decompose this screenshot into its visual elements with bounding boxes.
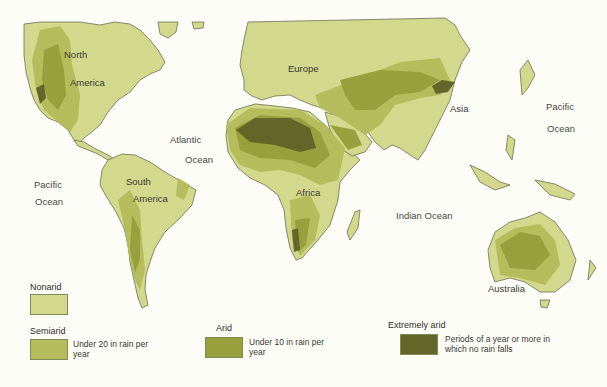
legend-arid-swatch	[205, 337, 243, 358]
label-asia: Asia	[450, 104, 468, 115]
label-europe: Europe	[288, 64, 319, 75]
label-north-america-1: North	[64, 50, 87, 61]
label-atlantic-ocean-1: Atlantic	[170, 135, 201, 146]
label-pacific-ocean-west-1: Pacific	[34, 180, 62, 191]
label-africa: Africa	[296, 188, 320, 199]
new-zealand-landmass	[588, 260, 596, 280]
legend-nonarid-title: Nonarid	[30, 282, 62, 292]
legend-extremely-arid-description: Periods of a year or more in which no ra…	[445, 334, 560, 354]
label-pacific-ocean-west-2: Ocean	[35, 197, 63, 208]
label-south-america-1: South	[126, 177, 151, 188]
tasmania-landmass	[540, 300, 550, 308]
new-guinea-landmass	[535, 180, 575, 200]
legend-semiarid-swatch	[30, 339, 68, 360]
label-pacific-ocean-east-1: Pacific	[546, 102, 574, 113]
label-pacific-ocean-east-2: Ocean	[547, 124, 575, 135]
indonesia-landmass	[470, 165, 510, 190]
legend-arid-title: Arid	[216, 323, 232, 333]
label-atlantic-ocean-2: Ocean	[185, 155, 213, 166]
legend-nonarid-swatch	[30, 294, 68, 315]
label-indian-ocean: Indian Ocean	[396, 211, 453, 222]
legend-extremely-arid-swatch	[400, 334, 438, 355]
legend-extremely-arid-title: Extremely arid	[388, 320, 446, 330]
philippines-landmass	[506, 135, 515, 160]
label-australia: Australia	[488, 284, 525, 295]
label-south-america-2: America	[133, 194, 168, 205]
legend-arid-description: Under 10 in rain per year	[249, 337, 329, 357]
label-north-america-2: America	[70, 78, 105, 89]
greenland-landmass	[158, 22, 178, 38]
japan-landmass	[520, 60, 535, 95]
madagascar-landmass	[347, 210, 360, 240]
legend-semiarid-description: Under 20 in rain per year	[73, 339, 153, 359]
central-america-landmass	[74, 140, 115, 160]
iceland-landmass	[192, 22, 204, 29]
legend-semiarid-title: Semiarid	[30, 326, 66, 336]
